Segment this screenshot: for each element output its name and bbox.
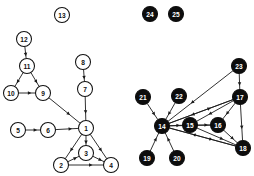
graph-node-7[interactable]: 7 <box>78 82 93 97</box>
node-circle[interactable] <box>79 146 94 161</box>
edge-arrow-icon <box>82 76 85 80</box>
graph-node-3[interactable]: 3 <box>79 146 94 161</box>
graph-node-1[interactable]: 1 <box>79 121 94 136</box>
node-circle[interactable] <box>183 118 198 133</box>
node-circle[interactable] <box>170 151 185 166</box>
graph-node-4[interactable]: 4 <box>104 158 119 173</box>
graph-node-24[interactable]: 24 <box>143 7 158 22</box>
graph-node-22[interactable]: 22 <box>172 89 187 104</box>
graph-node-23[interactable]: 23 <box>232 59 247 74</box>
graph-node-14[interactable]: 14 <box>155 119 170 134</box>
graph-edge <box>198 123 211 126</box>
edge-arrow-icon <box>84 141 87 144</box>
node-circle[interactable] <box>78 82 93 97</box>
graph-node-12[interactable]: 12 <box>17 32 32 47</box>
node-circle[interactable] <box>20 59 35 74</box>
node-circle[interactable] <box>54 158 69 173</box>
graph-edge <box>49 98 80 124</box>
node-circle[interactable] <box>55 8 70 23</box>
node-circle[interactable] <box>104 158 119 173</box>
graph-edge <box>69 163 104 166</box>
edge-arrow-icon <box>89 163 92 166</box>
graph-node-17[interactable]: 17 <box>233 90 248 105</box>
edge-arrow-icon <box>204 123 207 126</box>
edges-layer <box>15 46 244 166</box>
node-circle[interactable] <box>11 123 26 138</box>
node-circle[interactable] <box>233 90 248 105</box>
edge-arrow-icon <box>240 126 243 130</box>
node-circle[interactable] <box>41 123 56 138</box>
graph-edge <box>26 128 41 131</box>
graph-node-15[interactable]: 15 <box>183 118 198 133</box>
node-circle[interactable] <box>136 90 151 105</box>
graph-node-16[interactable]: 16 <box>211 118 226 133</box>
edge-arrow-icon <box>28 91 31 94</box>
node-circle[interactable] <box>17 32 32 47</box>
graph-edge <box>55 127 78 130</box>
nodes-layer: 1234567891011121314151617181920212223242… <box>4 7 251 173</box>
graph-node-6[interactable]: 6 <box>41 123 56 138</box>
edge-arrow-icon <box>238 82 241 86</box>
graph-edge <box>24 46 27 58</box>
graph-edge <box>224 130 238 143</box>
edge-arrow-icon <box>84 110 87 113</box>
graph-node-19[interactable]: 19 <box>140 151 155 166</box>
node-circle[interactable] <box>172 89 187 104</box>
graph-node-2[interactable]: 2 <box>54 158 69 173</box>
graph-edge <box>31 72 39 86</box>
node-circle[interactable] <box>140 151 155 166</box>
graph-node-8[interactable]: 8 <box>76 55 91 70</box>
graph-edge <box>15 72 23 86</box>
graph-node-11[interactable]: 11 <box>20 59 35 74</box>
node-circle[interactable] <box>76 55 91 70</box>
graph-node-13[interactable]: 13 <box>55 8 70 23</box>
graph-node-5[interactable]: 5 <box>11 123 26 138</box>
graph-node-9[interactable]: 9 <box>36 86 51 101</box>
graph-node-18[interactable]: 18 <box>236 141 251 156</box>
graph-edge <box>150 133 159 151</box>
node-circle[interactable] <box>211 118 226 133</box>
node-circle[interactable] <box>236 141 251 156</box>
node-link-graph: 1234567891011121314151617181920212223242… <box>0 0 254 176</box>
node-circle[interactable] <box>4 86 19 101</box>
graph-node-25[interactable]: 25 <box>169 7 184 22</box>
graph-edge <box>84 136 87 146</box>
graph-edge <box>93 156 104 162</box>
node-circle[interactable] <box>79 121 94 136</box>
graph-node-10[interactable]: 10 <box>4 86 19 101</box>
diagram-canvas: 1234567891011121314151617181920212223242… <box>0 0 254 176</box>
node-circle[interactable] <box>155 119 170 134</box>
graph-edge <box>82 69 85 81</box>
graph-node-20[interactable]: 20 <box>170 151 185 166</box>
node-circle[interactable] <box>169 7 184 22</box>
graph-edge <box>19 91 36 94</box>
graph-edge <box>68 156 79 162</box>
node-circle[interactable] <box>143 7 158 22</box>
graph-node-21[interactable]: 21 <box>136 90 151 105</box>
node-circle[interactable] <box>232 59 247 74</box>
graph-edge <box>238 73 241 89</box>
graph-edge <box>84 96 87 120</box>
graph-edge <box>165 133 174 151</box>
edge-arrow-icon <box>69 127 73 130</box>
graph-edge <box>147 103 158 119</box>
graph-edge <box>240 104 243 140</box>
edge-arrow-icon <box>34 128 37 131</box>
node-circle[interactable] <box>36 86 51 101</box>
